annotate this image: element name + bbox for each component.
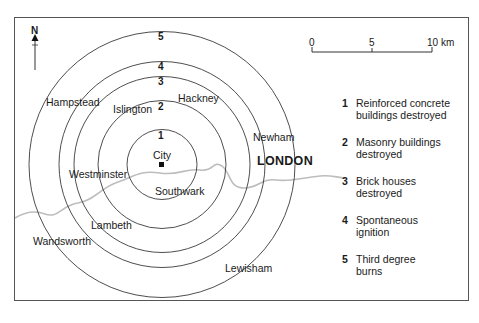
scale-tick-5: 5 [369, 38, 375, 48]
place-islington: Islington [113, 104, 152, 115]
place-city: City [153, 150, 171, 161]
place-hackney: Hackney [178, 93, 219, 104]
ring-number-5: 5 [158, 32, 164, 42]
legend-item-4: 4 Spontaneous ignition [342, 214, 462, 238]
scale-tick-0: 0 [309, 38, 315, 48]
place-westminster: Westminster [69, 169, 127, 180]
ring-number-4: 4 [158, 62, 164, 72]
place-newham: Newham [253, 132, 294, 143]
place-wandsworth: Wandsworth [33, 236, 91, 247]
legend: 1 Reinforced concrete buildings destroye… [342, 97, 462, 292]
legend-item-3: 3 Brick houses destroyed [342, 175, 462, 199]
place-lewisham: Lewisham [225, 263, 272, 274]
ring-number-3: 3 [158, 77, 164, 87]
place-hampstead: Hampstead [46, 97, 100, 108]
map-title-london: LONDON [257, 155, 313, 168]
ring-number-2: 2 [158, 102, 164, 112]
legend-item-1: 1 Reinforced concrete buildings destroye… [342, 97, 462, 121]
ring-number-1: 1 [158, 131, 164, 141]
place-lambeth: Lambeth [91, 220, 132, 231]
legend-item-2: 2 Masonry buildings destroyed [342, 136, 462, 160]
place-southwark: Southwark [155, 186, 205, 197]
legend-item-5: 5 Third degree burns [342, 253, 462, 277]
city-marker-icon [159, 162, 164, 167]
north-label: N [31, 26, 38, 36]
scale-tick-10: 10 km [427, 38, 454, 48]
north-arrow-icon [32, 34, 39, 70]
